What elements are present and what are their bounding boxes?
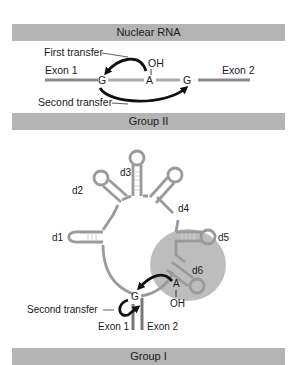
a-branch-label: A	[146, 74, 153, 86]
domain-label-d1: d1	[52, 232, 64, 243]
second-transfer-label: Second transfer	[38, 96, 113, 108]
nuclear-rna-panel: G A G OH Exon 1 Exon 2 First transfer Se…	[38, 46, 255, 108]
domain-label-d5: d5	[218, 232, 230, 243]
exon2-label: Exon 2	[222, 64, 255, 76]
exon1-label: Exon 1	[45, 64, 78, 76]
group2-second-transfer-label: Second transfer	[27, 304, 98, 315]
d3-loop	[130, 151, 144, 165]
oh-label: OH	[148, 57, 164, 69]
group2-exon1-label: Exon 1	[98, 321, 130, 332]
domain-label-d4: d4	[178, 203, 190, 214]
group-ii-panel: d3 d2 d4 d1 d5 d6 G A OH Second transfer…	[27, 151, 230, 332]
first-transfer-label: First transfer	[44, 46, 103, 58]
d1-loop	[69, 232, 80, 242]
first-transfer-arrow	[106, 59, 146, 73]
group2-g-label: G	[131, 291, 139, 302]
group2-oh-label: OH	[170, 298, 185, 309]
d4-loop	[168, 168, 182, 182]
group2-a-label: A	[173, 278, 180, 289]
d2-loop	[94, 171, 108, 185]
domain-label-d3: d3	[120, 167, 132, 178]
g-left-label: G	[98, 74, 106, 86]
g-right-label: G	[183, 74, 191, 86]
group2-second-transfer-arrow	[120, 300, 138, 315]
second-transfer-arrow	[100, 88, 186, 101]
group2-exon2-label: Exon 2	[147, 321, 179, 332]
domain-label-d2: d2	[72, 185, 84, 196]
domain-label-d6: d6	[192, 265, 204, 276]
